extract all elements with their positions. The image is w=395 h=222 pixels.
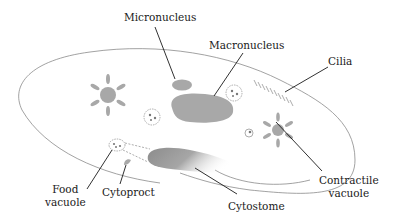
contractile-vacuole-left-icon xyxy=(90,74,127,116)
cytostome-shape xyxy=(148,148,240,173)
food-vacuole-4-icon xyxy=(109,139,125,151)
food-vacuole-label: Food vacuole xyxy=(45,183,86,209)
contractile-vacuole-label: Contractile vacuole xyxy=(319,174,379,200)
macronucleus-shape xyxy=(171,93,233,122)
macronucleus-label: Macronucleus xyxy=(209,39,284,52)
food-vacuole-label-line1: Food xyxy=(45,183,86,196)
cytostome-label: Cytostome xyxy=(228,200,285,213)
micronucleus-label: Micronucleus xyxy=(124,11,196,24)
contractile-vacuole-label-line1: Contractile xyxy=(319,174,379,187)
food-vacuole-label-line2: vacuole xyxy=(45,196,86,209)
contractile-vacuole-right-icon xyxy=(262,113,294,148)
cilia-label: Cilia xyxy=(328,55,352,68)
cytoproct-shape xyxy=(124,159,131,165)
food-vacuole-1-icon xyxy=(144,109,160,125)
vacuole-path-lines xyxy=(123,143,150,162)
contractile-vacuole-label-line2: vacuole xyxy=(319,187,379,200)
micronucleus-shape xyxy=(172,80,192,91)
food-vacuole-2-icon xyxy=(226,85,242,101)
food-vacuole-3-icon xyxy=(245,129,253,137)
cytoproct-label: Cytoproct xyxy=(102,186,155,199)
